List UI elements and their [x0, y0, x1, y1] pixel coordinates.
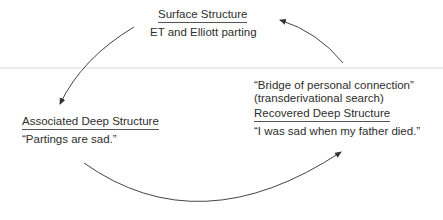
bridge-text-line2: (transderivational search) [254, 91, 384, 105]
arrow-surface-to-associated [60, 27, 134, 104]
recovered-deep-structure-text: “I was sad when my father died.” [254, 124, 420, 138]
surface-structure-heading: Surface Structure [158, 7, 247, 23]
associated-deep-structure-heading: Associated Deep Structure [22, 114, 159, 130]
arrow-recovered-to-surface [280, 20, 343, 63]
bridge-text-line1: “Bridge of personal connection” [254, 78, 414, 92]
arrow-associated-to-recovered [84, 152, 341, 201]
surface-structure-text: ET and Elliott parting [150, 25, 257, 39]
associated-deep-structure-text: “Partings are sad.” [22, 132, 117, 146]
recovered-deep-structure-heading: Recovered Deep Structure [254, 106, 390, 122]
